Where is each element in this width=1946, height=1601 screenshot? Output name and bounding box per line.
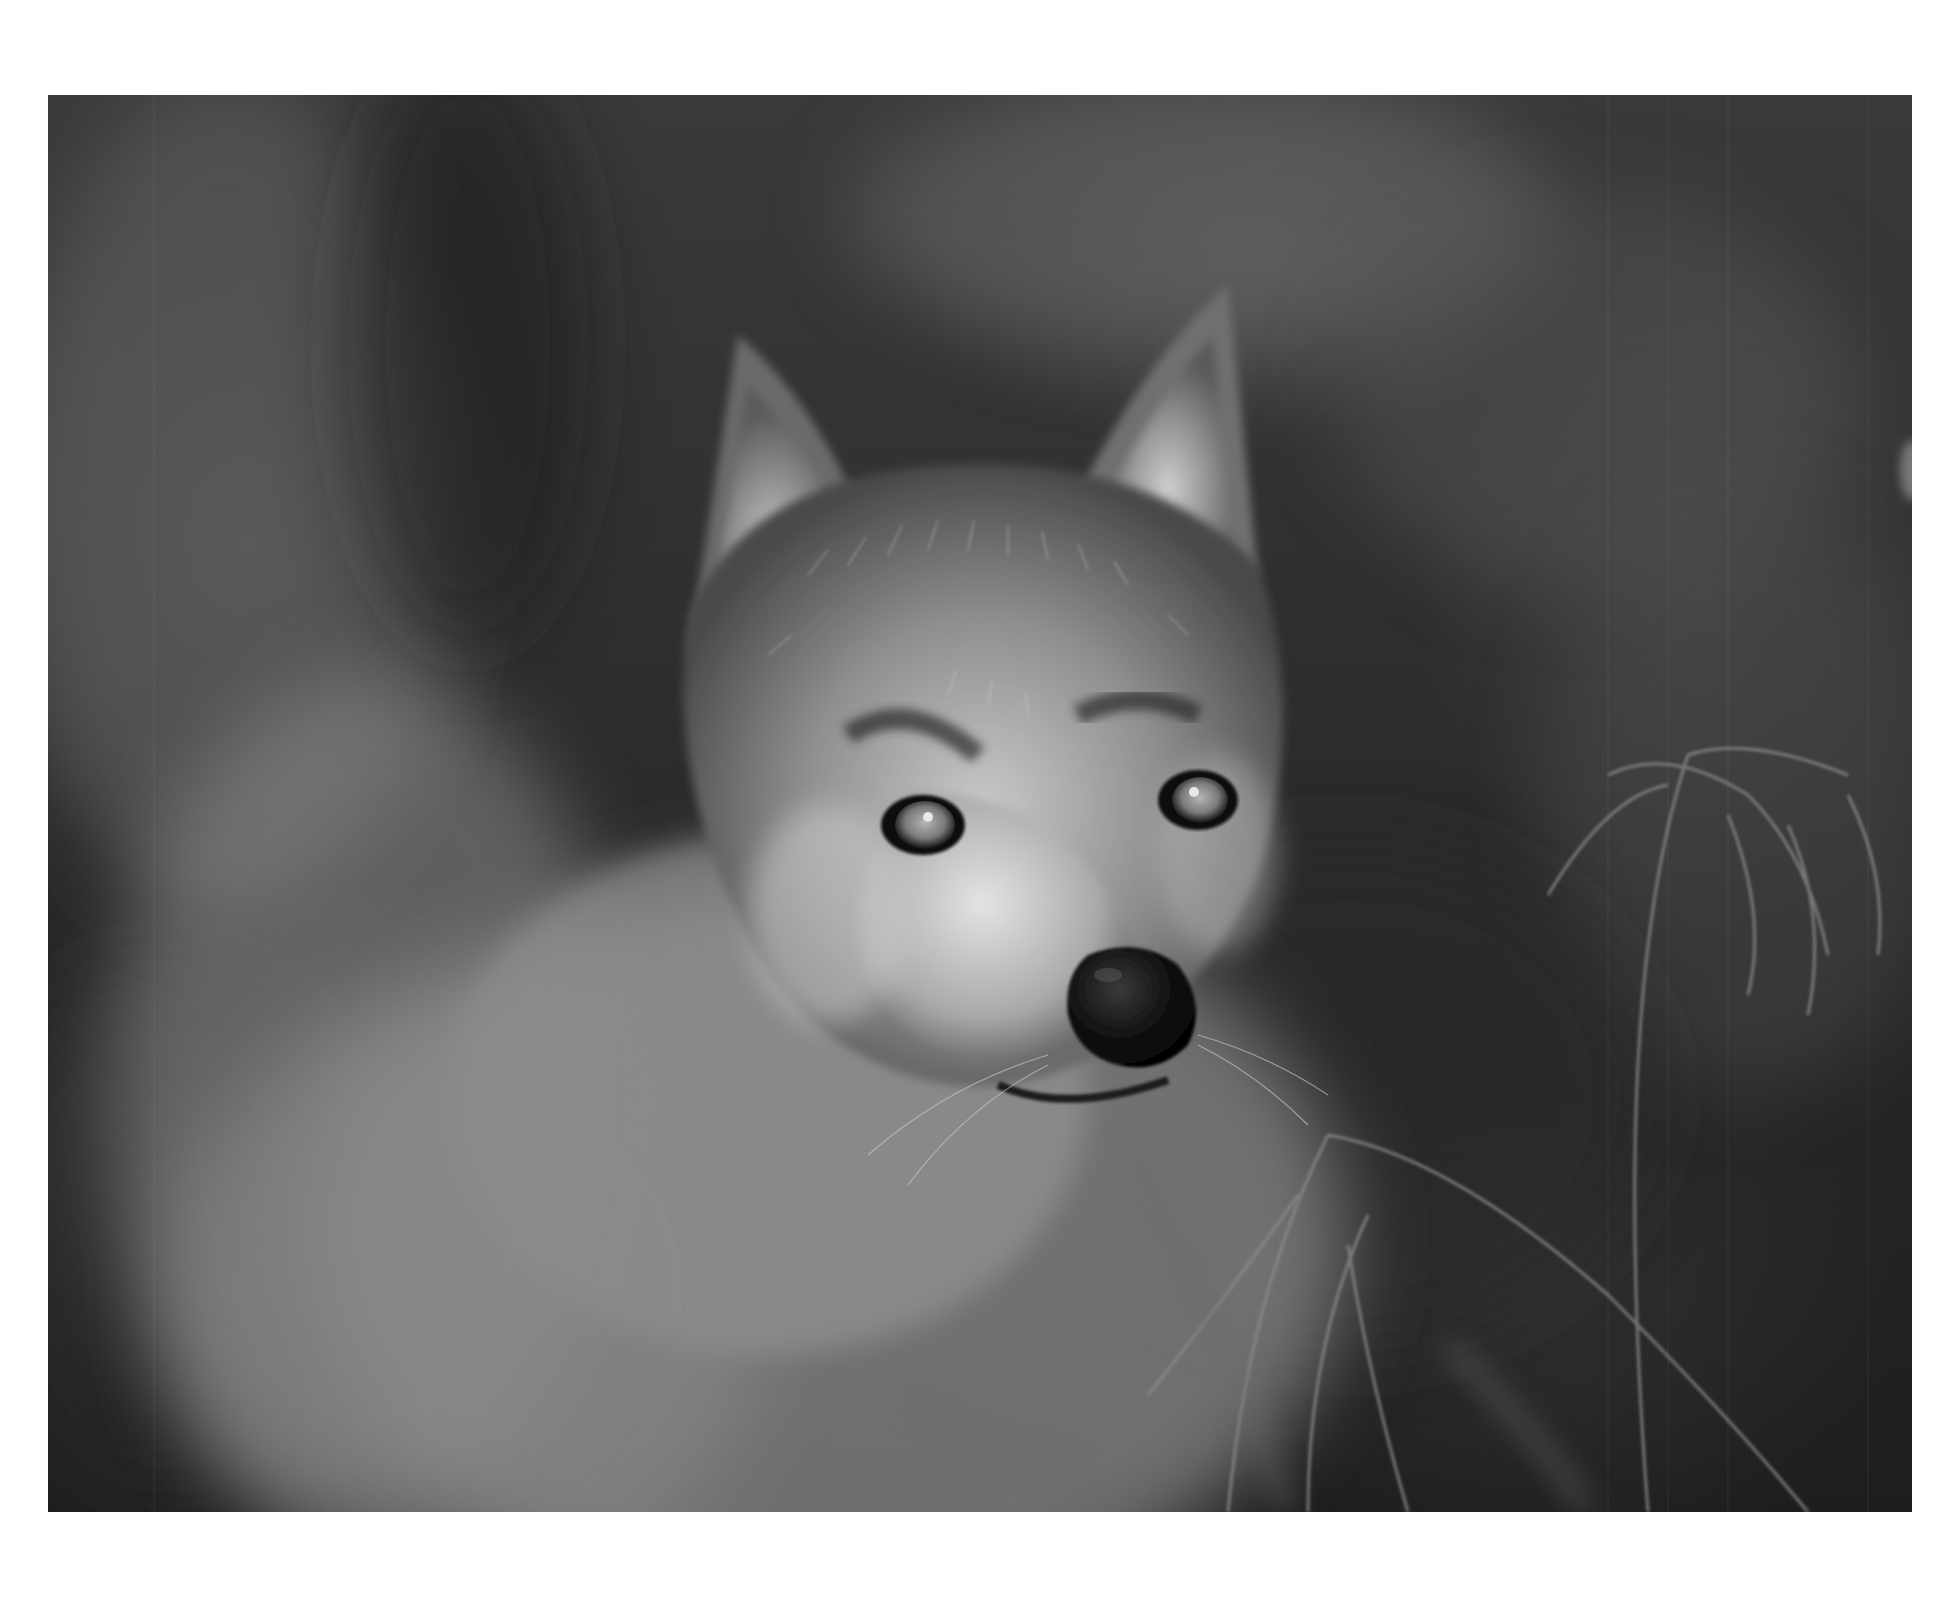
wolf-photograph (48, 95, 1912, 1512)
edge-highlight (1900, 440, 1912, 500)
foreground-blur (108, 675, 628, 1512)
wolf-illustration (48, 95, 1912, 1512)
page (0, 0, 1946, 1601)
